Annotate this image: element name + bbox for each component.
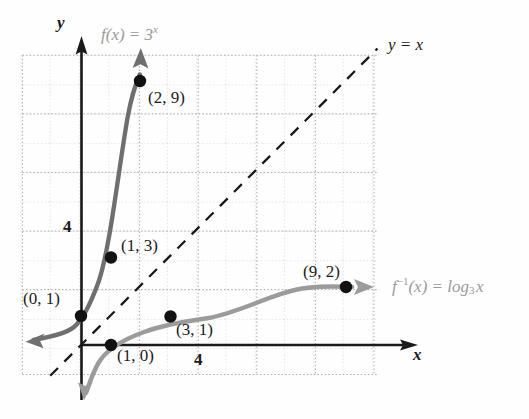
identity-line-label: y = x <box>388 35 423 55</box>
inverse-label-mid: (x) = log <box>408 277 469 296</box>
x-axis-tick-label-4: 4 <box>194 350 203 370</box>
point-3-1 <box>164 310 176 322</box>
point-label-3-1: (3, 1) <box>176 320 213 340</box>
exponential-function-label: f(x) = 3x <box>101 23 158 45</box>
exponential-label-text: f(x) = 3 <box>101 25 153 44</box>
y-axis-name: y <box>57 13 65 33</box>
y-axis-tick-label-4: 4 <box>63 217 72 237</box>
point-label-9-2: (9, 2) <box>303 262 340 282</box>
inverse-function-label: f−1(x) = log3 x <box>392 275 483 297</box>
point-1-3 <box>105 251 117 263</box>
point-1-0 <box>105 339 117 351</box>
x-axis-name: x <box>413 345 422 365</box>
math-graph-figure: y x 4 4 f(x) = 3x y = x f−1(x) = log3 x … <box>0 0 529 419</box>
point-9-2 <box>340 281 352 293</box>
identity-label-text: y = x <box>388 35 423 54</box>
point-2-9 <box>134 75 146 87</box>
inverse-label-suffix: x <box>476 277 484 296</box>
point-label-1-0: (1, 0) <box>117 346 154 366</box>
inverse-label-sup: −1 <box>397 275 409 287</box>
point-label-1-3: (1, 3) <box>121 236 158 256</box>
inverse-label-sub: 3 <box>469 284 475 296</box>
exponential-label-exponent: x <box>153 23 158 35</box>
point-label-0-1: (0, 1) <box>23 289 60 309</box>
graph-canvas <box>0 0 529 419</box>
point-label-2-9: (2, 9) <box>148 88 185 108</box>
point-0-1 <box>75 310 87 322</box>
